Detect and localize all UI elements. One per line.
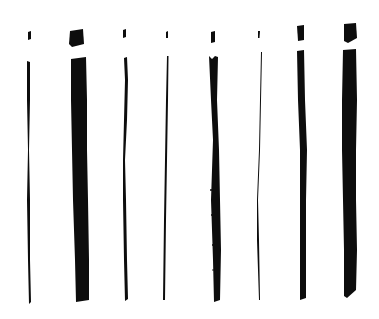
ink-letter-i-5 xyxy=(209,31,221,302)
ink-letter-i-2 xyxy=(69,29,89,302)
ink-letter-i-4 xyxy=(163,31,169,300)
ink-strokes-illustration xyxy=(0,0,379,319)
ink-letter-i-3 xyxy=(123,29,128,301)
ink-letter-i-8 xyxy=(342,23,357,298)
ink-letter-i-6 xyxy=(257,31,262,300)
ink-letter-i-1 xyxy=(27,31,31,304)
ink-letter-i-7 xyxy=(297,25,307,300)
